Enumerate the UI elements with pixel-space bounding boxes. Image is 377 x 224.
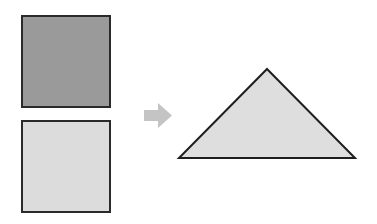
diagram-canvas <box>0 0 377 224</box>
triangle <box>179 69 355 158</box>
arrow-right-icon <box>144 103 172 128</box>
